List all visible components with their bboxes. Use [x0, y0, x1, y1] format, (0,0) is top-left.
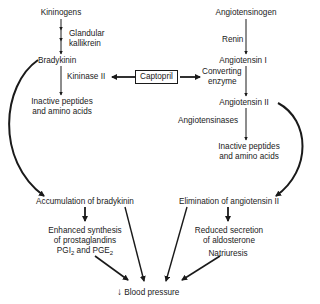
converting-enzyme-label-1: Converting [202, 67, 242, 77]
blood-pressure-label: Blood pressure [124, 288, 179, 297]
angiotensinases-label: Angiotensinases [178, 116, 238, 126]
kininogens-node: Kininogens [41, 8, 82, 18]
angiotensinogen-node: Angiotensinogen [215, 8, 276, 18]
reduced-secretion-1: Reduced secretion [195, 226, 263, 236]
left-inactive-peptides-2: and amino acids [32, 107, 92, 117]
captopril-box: Captopril [135, 70, 178, 84]
down-arrow-icon: ↓ [117, 286, 122, 297]
natriuresis: Natriuresis [208, 249, 247, 259]
accumulation-of-bradykinin: Accumulation of bradykinin [36, 197, 134, 207]
right-inactive-peptides-2: and amino acids [219, 152, 279, 162]
renin-label: Renin [222, 35, 243, 45]
blood-pressure-outcome: ↓ Blood pressure [117, 287, 179, 298]
left-inactive-peptides-1: Inactive peptides [31, 97, 92, 107]
prostaglandins-pgi2-pge2: PGI2 and PGE2 [57, 246, 113, 258]
glandular-kallikrein-label-1: Glandular [69, 29, 105, 39]
reduced-secretion-2: of aldosterone [203, 236, 255, 246]
kininase-ii-label: Kininase II [67, 72, 105, 82]
angiotensin-ii-node: Angiotensin II [219, 98, 269, 108]
elimination-of-angiotensin-ii: Elimination of angiotensin II [179, 197, 279, 207]
enhanced-synthesis-1: Enhanced synthesis [48, 226, 121, 236]
right-inactive-peptides-1: Inactive peptides [218, 142, 279, 152]
enhanced-synthesis-2: of prostaglandins [54, 236, 116, 246]
converting-enzyme-label-2: enzyme [208, 77, 237, 87]
angiotensin-i-node: Angiotensin I [219, 56, 266, 66]
bradykinin-node: Bradykinin [38, 56, 76, 66]
glandular-kallikrein-label-2: kallikrein [69, 39, 101, 49]
